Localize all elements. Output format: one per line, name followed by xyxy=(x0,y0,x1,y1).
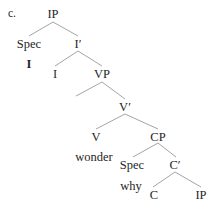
tree-edge-cp-to-cbar xyxy=(158,143,176,157)
tree-edge-ibar-to-i xyxy=(55,51,78,66)
tree-node-cp: CP xyxy=(150,131,165,144)
tree-node-v-head: V xyxy=(91,131,100,144)
tree-node-ip-root: IP xyxy=(47,8,58,21)
tree-branch-lines xyxy=(0,0,214,211)
tree-node-i-head: I xyxy=(53,68,57,81)
tree-node-i-terminal: I xyxy=(27,58,32,71)
tree-edge-vbar-to-cp xyxy=(125,114,158,129)
tree-node-why: why xyxy=(120,180,142,193)
tree-edge-cbar-to-ip xyxy=(175,172,201,187)
tree-node-spec-ip: Spec xyxy=(17,38,41,51)
tree-edge-cp-to-spec xyxy=(133,143,158,157)
syntax-tree-figure: c. IPSpecI′IIVPV′VCPwonderSpecC′whyCIP xyxy=(0,0,214,211)
tree-edge-cbar-to-c xyxy=(153,172,175,187)
tree-node-vp: VP xyxy=(94,68,110,81)
tree-node-ip-embed: IP xyxy=(195,189,206,202)
tree-edge-ip-to-ibar xyxy=(53,22,78,36)
tree-edge-vp-to-vbar xyxy=(102,82,125,99)
tree-node-vbar: V′ xyxy=(119,101,131,114)
tree-edge-vbar-to-v xyxy=(96,114,125,129)
tree-edge-vp-to-spec xyxy=(76,82,102,96)
tree-edge-ibar-to-vp xyxy=(78,51,102,66)
tree-node-ibar: I′ xyxy=(75,38,82,51)
tree-node-spec-cp: Spec xyxy=(120,159,144,172)
tree-node-wonder: wonder xyxy=(75,151,113,164)
tree-node-cbar: C′ xyxy=(169,159,180,172)
tree-edge-ip-to-spec xyxy=(29,22,53,36)
tree-node-c-head: C xyxy=(150,189,158,202)
